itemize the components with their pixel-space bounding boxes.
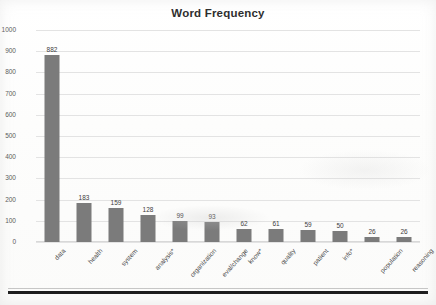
bar-group: 59patient bbox=[292, 30, 324, 242]
bar[interactable] bbox=[77, 203, 92, 242]
bar-value-label: 62 bbox=[240, 220, 247, 227]
x-axis-category-label: eval/change bbox=[220, 247, 249, 278]
plot-area: 10009008007006005004003002001000 882data… bbox=[36, 30, 420, 242]
y-axis-tick-label: 400 bbox=[0, 153, 16, 160]
bar-value-label: 99 bbox=[176, 212, 183, 219]
x-axis-category-label: health bbox=[87, 247, 104, 265]
y-axis-tick-label: 300 bbox=[0, 174, 16, 181]
y-axis-tick-label: 500 bbox=[0, 132, 16, 139]
bar-group: 93eval/change bbox=[196, 30, 228, 242]
scan-artifact-line bbox=[8, 291, 428, 294]
bar[interactable] bbox=[365, 237, 380, 243]
x-axis-category-label: quality bbox=[279, 247, 297, 266]
bar-group: 61quality bbox=[260, 30, 292, 242]
bar-value-label: 26 bbox=[368, 228, 375, 235]
bar-value-label: 61 bbox=[272, 220, 279, 227]
gridline bbox=[36, 242, 420, 243]
y-axis-tick-label: 100 bbox=[0, 217, 16, 224]
x-axis-category-label: patient bbox=[311, 247, 329, 266]
x-axis-category-label: organization bbox=[188, 247, 217, 278]
bar-group: 128analysis* bbox=[132, 30, 164, 242]
bar[interactable] bbox=[205, 222, 220, 242]
x-axis-category-label: data bbox=[53, 247, 67, 261]
bar-value-label: 128 bbox=[143, 206, 154, 213]
x-axis-category-label: analysis* bbox=[153, 247, 176, 271]
y-axis-tick-label: 900 bbox=[0, 47, 16, 54]
bar[interactable] bbox=[173, 221, 188, 242]
bar-group: 159system bbox=[100, 30, 132, 242]
bar[interactable] bbox=[237, 229, 252, 242]
bar-value-label: 159 bbox=[111, 199, 122, 206]
y-axis-tick-label: 1000 bbox=[0, 26, 16, 33]
bar[interactable] bbox=[397, 237, 412, 243]
scan-artifact-line bbox=[8, 288, 428, 289]
bar-value-label: 26 bbox=[400, 228, 407, 235]
bar-group: 50info* bbox=[324, 30, 356, 242]
bar-group: 183health bbox=[68, 30, 100, 242]
bar[interactable] bbox=[269, 229, 284, 242]
bar-group: 99organization bbox=[164, 30, 196, 242]
bar-group: 62know* bbox=[228, 30, 260, 242]
bar-value-label: 93 bbox=[208, 213, 215, 220]
chart-screenshot: Word Frequency 1000900800700600500400300… bbox=[0, 0, 436, 305]
y-axis-tick-label: 200 bbox=[0, 196, 16, 203]
bar[interactable] bbox=[333, 231, 348, 242]
bar[interactable] bbox=[141, 215, 156, 242]
y-axis-tick-label: 600 bbox=[0, 111, 16, 118]
chart-title: Word Frequency bbox=[0, 7, 436, 19]
y-axis-tick-label: 800 bbox=[0, 68, 16, 75]
x-axis-category-label: reasoning bbox=[410, 247, 434, 273]
y-axis-tick-label: 700 bbox=[0, 90, 16, 97]
bar-value-label: 882 bbox=[47, 46, 58, 53]
bar[interactable] bbox=[109, 208, 124, 242]
bar-group: 882data bbox=[36, 30, 68, 242]
x-axis-category-label: know* bbox=[247, 247, 264, 265]
bar[interactable] bbox=[301, 230, 316, 243]
y-axis-tick-label: 0 bbox=[0, 238, 16, 245]
bar-group: 26population bbox=[356, 30, 388, 242]
bar-value-label: 59 bbox=[304, 221, 311, 228]
x-axis-category-label: info* bbox=[341, 247, 355, 261]
bar-group: 26reasoning bbox=[388, 30, 420, 242]
x-axis-category-label: system bbox=[120, 247, 139, 267]
bar-value-label: 50 bbox=[336, 222, 343, 229]
x-axis-category-label: population bbox=[379, 247, 404, 274]
bar-value-label: 183 bbox=[79, 194, 90, 201]
bar[interactable] bbox=[45, 55, 60, 242]
